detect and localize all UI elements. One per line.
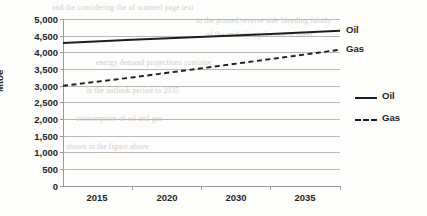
data-label-gas: Gas	[346, 43, 364, 54]
legend-key-dashed-icon	[355, 119, 377, 121]
series-line-oil	[63, 31, 340, 43]
legend-item-oil[interactable]: Oil	[355, 88, 423, 110]
legend-key-solid-icon	[355, 97, 377, 99]
chart-screenshot: and the considering the of scanned page …	[0, 0, 427, 216]
legend-item-gas[interactable]: Gas	[355, 110, 423, 132]
series-line-gas	[63, 50, 340, 86]
legend-label: Oil	[382, 90, 395, 101]
data-label-oil: Oil	[346, 24, 359, 35]
chart-legend: Oil Gas	[355, 88, 423, 132]
legend-label: Gas	[382, 112, 400, 123]
